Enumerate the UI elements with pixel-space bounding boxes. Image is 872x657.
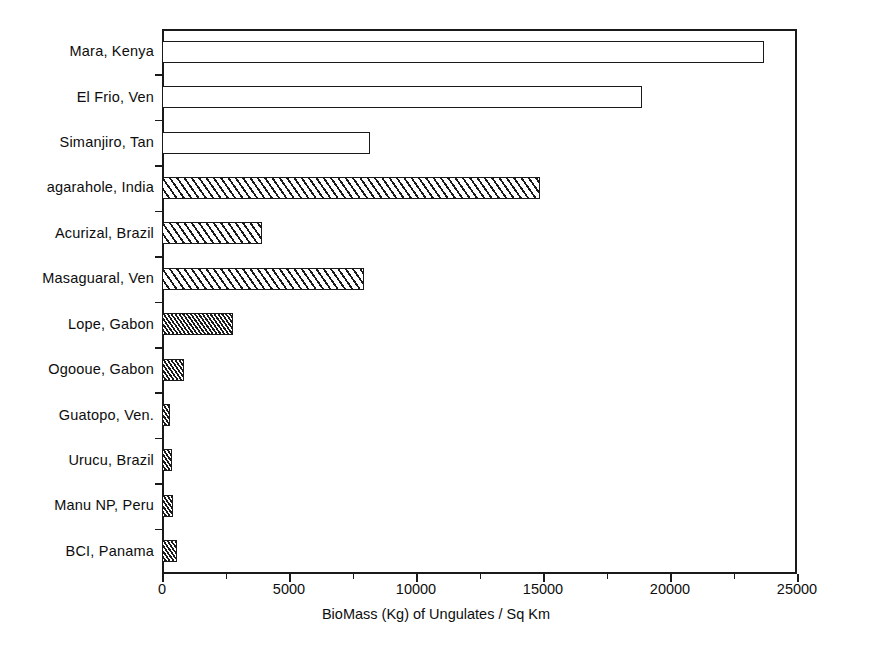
x-axis-minor-tick (734, 574, 735, 579)
category-label: Urucu, Brazil (0, 453, 154, 468)
y-axis-tick (155, 529, 162, 531)
y-axis-tick (155, 120, 162, 122)
x-axis-minor-tick (607, 574, 608, 579)
bar (162, 41, 764, 63)
category-label: Simanjiro, Tan (0, 135, 154, 150)
category-label: Lope, Gabon (0, 317, 154, 332)
x-axis-minor-tick (480, 574, 481, 579)
x-axis-tick-label: 10000 (396, 582, 436, 597)
bar-chart: Mara, KenyaEl Frio, VenSimanjiro, Tanaga… (0, 0, 872, 657)
y-axis-tick (155, 165, 162, 167)
y-axis-tick (155, 211, 162, 213)
bar (162, 177, 540, 199)
category-label: El Frio, Ven (0, 90, 154, 105)
bar (162, 268, 364, 290)
x-axis-minor-tick (226, 574, 227, 579)
bar (162, 132, 370, 154)
bar (162, 86, 642, 108)
x-axis-tick-label: 5000 (273, 582, 305, 597)
bar (162, 495, 173, 517)
bar (162, 313, 233, 335)
y-axis-tick (155, 256, 162, 258)
y-axis-tick (155, 392, 162, 394)
x-axis-tick-label: 25000 (777, 582, 817, 597)
y-axis-tick (155, 347, 162, 349)
bar (162, 540, 177, 562)
category-label: Mara, Kenya (0, 44, 154, 59)
category-axis-labels: Mara, KenyaEl Frio, VenSimanjiro, Tanaga… (0, 0, 158, 570)
y-axis-tick (155, 438, 162, 440)
category-label: Ogooue, Gabon (0, 362, 154, 377)
category-label: Manu NP, Peru (0, 498, 154, 513)
bar (162, 359, 184, 381)
x-axis-minor-tick (353, 574, 354, 579)
category-label: BCI, Panama (0, 544, 154, 559)
x-axis-title: BioMass (Kg) of Ungulates / Sq Km (0, 607, 872, 622)
x-axis-tick-label: 0 (158, 582, 166, 597)
plot-area (162, 29, 797, 574)
value-axis-line (162, 29, 164, 574)
bar (162, 404, 170, 426)
y-axis-tick (155, 483, 162, 485)
y-axis-tick (155, 302, 162, 304)
plot-frame-right (795, 29, 797, 574)
category-label: Acurizal, Brazil (0, 226, 154, 241)
category-label: agarahole, India (0, 180, 154, 195)
category-label: Guatopo, Ven. (0, 408, 154, 423)
plot-frame-top (162, 29, 797, 31)
x-axis-tick-label: 20000 (650, 582, 690, 597)
category-label: Masaguaral, Ven (0, 271, 154, 286)
x-axis-tick-label: 15000 (523, 582, 563, 597)
y-axis-tick (155, 74, 162, 76)
bar (162, 449, 172, 471)
bar (162, 222, 262, 244)
